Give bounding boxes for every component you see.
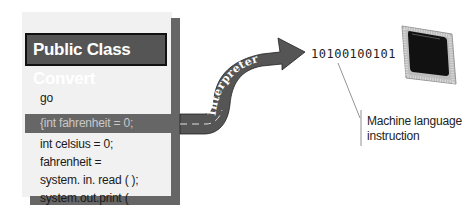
- cpu-chip-icon: [402, 26, 456, 84]
- road-shape: [180, 38, 305, 134]
- callout-leader-line: [338, 63, 360, 118]
- machine-code-binary: 10100100101: [311, 47, 396, 61]
- interpreter-road-arrow: Interpreter: [0, 0, 465, 222]
- callout-line-1: Machine language: [367, 114, 462, 129]
- callout-line-2: instruction: [367, 129, 462, 144]
- machine-language-callout: Machine language instruction: [367, 114, 462, 144]
